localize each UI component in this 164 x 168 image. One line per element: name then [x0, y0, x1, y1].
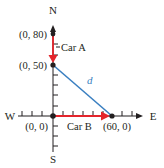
distance-line — [53, 65, 112, 116]
point-60-0 — [109, 113, 114, 118]
car-distance-diagram: N S W E (0, 80) (0, 50) (0, 0) (60, 0) C… — [0, 0, 164, 168]
point-0-50 — [50, 62, 55, 67]
car-a-vector — [49, 34, 58, 63]
north-label: N — [49, 4, 57, 16]
car-b-label: Car B — [67, 121, 92, 132]
point-label-origin: (0, 0) — [25, 121, 48, 133]
west-east-axis — [18, 111, 143, 119]
car-a-label: Car A — [61, 42, 86, 53]
north-south-axis — [50, 25, 58, 152]
distance-label: d — [87, 74, 93, 86]
point-0-80 — [51, 32, 56, 37]
car-a-arrowhead-icon — [49, 55, 58, 63]
north-arrow-icon — [50, 25, 56, 32]
car-b-vector — [53, 112, 110, 121]
point-label-0-50: (0, 50) — [19, 60, 47, 72]
point-label-60-0: (60, 0) — [103, 121, 131, 133]
point-origin — [50, 113, 56, 119]
west-label: W — [5, 110, 16, 122]
east-arrow-icon — [136, 113, 143, 119]
point-label-0-80: (0, 80) — [19, 29, 47, 41]
east-label: E — [150, 110, 157, 122]
south-label: S — [50, 153, 56, 165]
